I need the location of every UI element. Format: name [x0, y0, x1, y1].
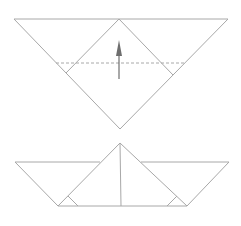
left-corner-mark	[68, 196, 78, 206]
right-corner-mark	[167, 196, 177, 206]
right-flap	[141, 162, 229, 206]
left-flap	[15, 162, 100, 206]
center-triangle	[58, 143, 187, 206]
step-2-boat-result	[15, 143, 229, 206]
fold-up-arrow-icon	[116, 40, 122, 79]
center-line	[120, 143, 121, 206]
outer-triangle	[14, 19, 228, 129]
origami-diagram	[0, 0, 241, 226]
step-1-fold-up	[14, 19, 228, 129]
